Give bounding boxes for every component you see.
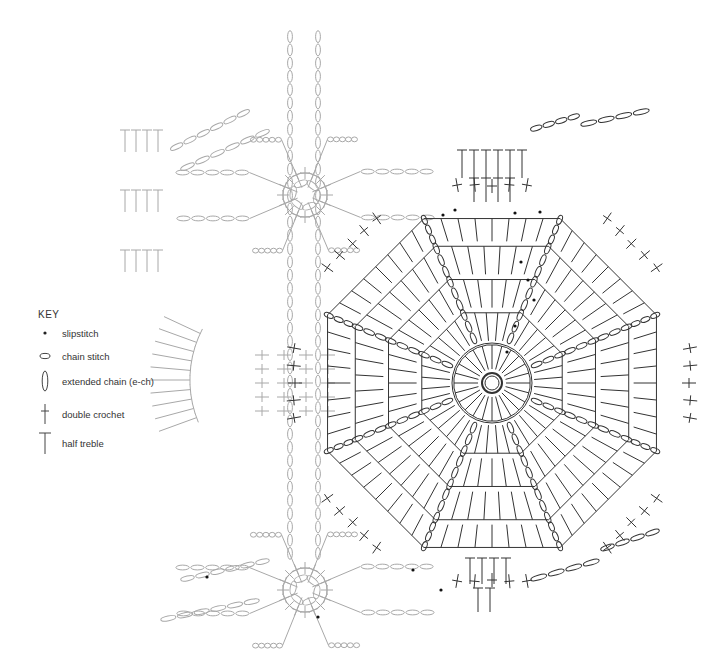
key-item-slipstitch: slipstitch: [30, 322, 98, 344]
key-label: half treble: [62, 438, 104, 449]
double-crochet-icon: [30, 403, 60, 425]
half-treble-icon: [30, 431, 60, 455]
key-label: double crochet: [62, 409, 124, 420]
chain-stitch-icon: [30, 351, 60, 361]
key-label: chain stitch: [62, 351, 110, 362]
key-item-double-crochet: double crochet: [30, 403, 124, 425]
extended-chain-icon: [30, 369, 60, 393]
slipstitch-icon: [30, 328, 60, 338]
key-label: extended chain (e-ch): [62, 376, 154, 387]
key-item-half-treble: half treble: [30, 432, 104, 454]
key-item-chain: chain stitch: [30, 345, 110, 367]
slipstitch-markers: [205, 208, 541, 618]
key-label: slipstitch: [62, 328, 98, 339]
key-item-extended-chain: extended chain (e-ch): [30, 370, 154, 392]
key-title: KEY: [38, 309, 60, 320]
stitch-key: KEY slipstitch chain stitch extended cha…: [0, 0, 200, 662]
